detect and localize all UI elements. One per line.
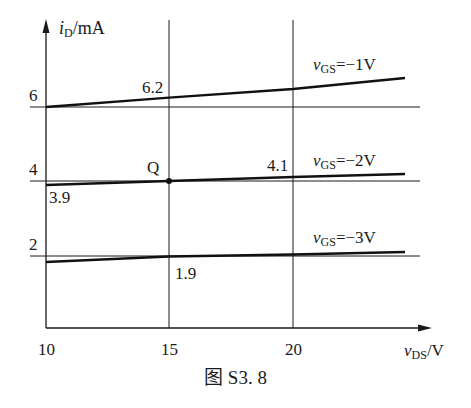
x-axis-var: v <box>404 341 412 360</box>
series-label-var: v <box>313 228 321 247</box>
q-point-marker <box>166 178 172 184</box>
y-tick-6: 6 <box>29 87 38 104</box>
series-label-value: =−1V <box>336 55 376 74</box>
y-tick-4: 4 <box>29 161 38 178</box>
y-axis-label: iD/mA <box>59 19 105 37</box>
x-axis-sub: DS <box>412 348 427 362</box>
series-label-sub: GS <box>321 62 336 76</box>
x-tick-15: 15 <box>161 341 178 358</box>
y-axis-arrow-icon <box>43 19 50 33</box>
annotation-1-9: 1.9 <box>175 265 196 282</box>
series-label-value: =−3V <box>336 228 376 247</box>
series-label-var: v <box>313 151 321 170</box>
curve-vgs-minus-2v <box>46 174 405 185</box>
y-axis-unit: /mA <box>73 18 105 38</box>
series-label-vgs-minus-3v: vGS=−3V <box>313 229 376 246</box>
y-axis-sub: D <box>64 26 73 40</box>
series-label-vgs-minus-2v: vGS=−2V <box>313 152 376 169</box>
annotation-4-1: 4.1 <box>267 157 288 174</box>
series-label-sub: GS <box>321 235 336 249</box>
x-axis-arrow-icon <box>418 325 432 332</box>
annotation-3-9: 3.9 <box>49 189 70 206</box>
series-label-value: =−2V <box>336 151 376 170</box>
series-label-vgs-minus-1v: vGS=−1V <box>313 56 376 73</box>
curve-vgs-minus-3v <box>46 252 405 262</box>
figure-caption: 图 S3. 8 <box>0 368 471 387</box>
x-tick-20: 20 <box>285 341 302 358</box>
x-axis-unit: /V <box>427 341 444 360</box>
series-label-sub: GS <box>321 158 336 172</box>
x-tick-10: 10 <box>38 341 55 358</box>
series-label-var: v <box>313 55 321 74</box>
curve-vgs-minus-1v <box>46 78 405 107</box>
y-tick-2: 2 <box>29 236 38 253</box>
plot-area <box>0 0 471 408</box>
x-axis-label: vDS/V <box>404 342 444 359</box>
annotation-6-2: 6.2 <box>142 79 163 96</box>
annotation-q: Q <box>147 159 159 176</box>
